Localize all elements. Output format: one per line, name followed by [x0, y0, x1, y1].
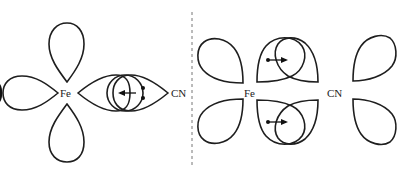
donation-arrowhead	[118, 90, 125, 96]
fe-d-lobe-bottom	[49, 104, 84, 162]
fe-label-left: Fe	[60, 87, 71, 99]
fe-d-lobe-lower-left	[198, 99, 243, 143]
fe-label-right: Fe	[244, 87, 255, 99]
fe-d-lobe-top	[49, 23, 84, 82]
right-panel-pi-backdonation: Fe CN	[198, 36, 396, 145]
cn-label-right: CN	[327, 87, 342, 99]
orbital-diagram: Fe CN Fe CN	[0, 0, 415, 171]
backdonation-arrowhead-lower	[281, 119, 288, 125]
backdonation-arrowhead-upper	[281, 57, 288, 63]
lone-pair-dot-2	[141, 96, 145, 100]
cn-pistar-lobe-lower-right	[353, 99, 396, 144]
left-edge-mark	[0, 84, 2, 102]
electron-dot-upper	[266, 58, 270, 62]
cn-label-left: CN	[171, 87, 186, 99]
lone-pair-dot-1	[141, 86, 145, 90]
electron-dot-lower	[266, 120, 270, 124]
left-panel-sigma-donation: Fe CN	[0, 23, 186, 162]
fe-d-lobe-upper-left	[198, 39, 243, 83]
cn-pistar-lobe-upper-right	[353, 36, 396, 81]
fe-d-lobe-left	[3, 76, 58, 110]
